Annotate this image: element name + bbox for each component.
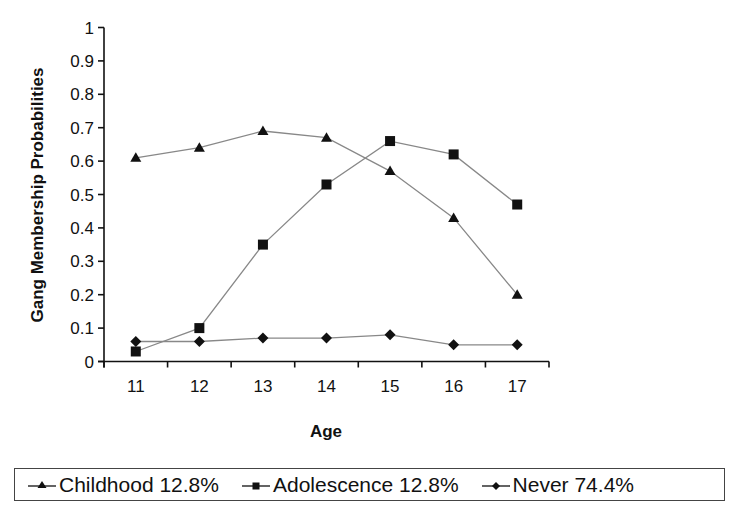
y-tick-label: 0.6: [70, 152, 94, 171]
series-layer: [130, 126, 522, 357]
legend-item-childhood: Childhood 12.8%: [27, 473, 219, 497]
triangle-marker: [257, 126, 268, 135]
triangle-marker: [448, 212, 459, 222]
y-tick-label: 0.7: [70, 119, 94, 138]
y-tick-label: 0.3: [70, 252, 94, 271]
diamond-marker: [257, 333, 268, 344]
y-tick-label: 0.9: [70, 52, 94, 71]
square-marker: [449, 149, 459, 159]
x-axis: 11121314151617: [98, 362, 549, 396]
legend-label: Childhood 12.8%: [59, 473, 219, 497]
series-square: [131, 136, 522, 356]
x-tick-label: 14: [317, 377, 336, 396]
y-tick-label: 0.1: [70, 319, 94, 338]
x-axis-title: Age: [310, 422, 342, 441]
diamond-marker: [130, 336, 141, 347]
square-marker: [512, 200, 522, 210]
x-tick-label: 13: [253, 377, 272, 396]
y-axis: 00.10.20.30.40.50.60.70.80.91: [70, 19, 104, 372]
y-tick-label: 0.2: [70, 286, 94, 305]
triangle-marker: [385, 166, 396, 176]
triangle-marker-icon: [27, 478, 57, 492]
square-marker-icon: [241, 478, 271, 492]
square-marker: [385, 136, 395, 146]
legend-label: Never 74.4%: [513, 473, 634, 497]
diamond-marker-icon: [481, 478, 511, 492]
line-chart: 00.10.20.30.40.50.60.70.80.91 1112131415…: [0, 0, 742, 523]
y-tick-label: 0.5: [70, 186, 94, 205]
x-tick-label: 16: [444, 377, 463, 396]
y-axis-title: Gang Membership Probabilities: [28, 67, 47, 322]
legend-label: Adolescence 12.8%: [273, 473, 459, 497]
legend: Childhood 12.8% Adolescence 12.8% Never …: [14, 468, 725, 501]
x-tick-label: 11: [127, 377, 145, 396]
square-marker: [322, 179, 332, 189]
diamond-marker: [385, 329, 396, 340]
y-tick-label: 0.4: [70, 219, 94, 238]
square-marker: [131, 346, 141, 356]
square-marker: [258, 240, 268, 250]
diamond-marker: [321, 333, 332, 344]
x-tick-label: 15: [381, 377, 400, 396]
legend-item-adolescence: Adolescence 12.8%: [241, 473, 459, 497]
y-tick-label: 0: [85, 353, 94, 372]
square-marker: [194, 323, 204, 333]
legend-item-never: Never 74.4%: [481, 473, 634, 497]
x-tick-label: 12: [190, 377, 209, 396]
diamond-marker: [448, 339, 459, 350]
series-triangle: [130, 126, 522, 299]
diamond-marker: [512, 339, 523, 350]
y-tick-label: 0.8: [70, 85, 94, 104]
x-tick-label: 17: [508, 377, 527, 396]
diamond-marker: [194, 336, 205, 347]
y-tick-label: 1: [85, 19, 94, 38]
